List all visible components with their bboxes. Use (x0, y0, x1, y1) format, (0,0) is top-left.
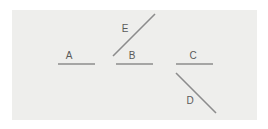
segment-e-label: E (122, 23, 129, 34)
segment-d-line (176, 73, 216, 113)
figure-root: ABCDE (0, 0, 268, 129)
segment-d-label: D (186, 95, 193, 106)
segment-c-label: C (189, 50, 196, 61)
segment-a-label: A (66, 50, 73, 61)
line-segment-diagram: ABCDE (0, 0, 268, 129)
segment-b-label: B (129, 50, 136, 61)
